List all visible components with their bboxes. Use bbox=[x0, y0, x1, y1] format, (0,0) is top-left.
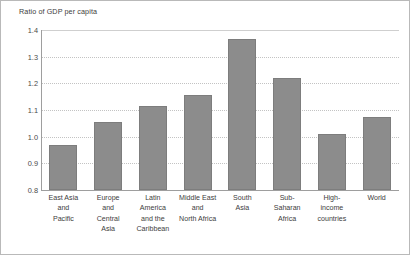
y-tick-label: 1.2 bbox=[10, 79, 38, 88]
bar-slot bbox=[220, 30, 265, 190]
x-tick-label: EuropeandCentralAsia bbox=[86, 193, 131, 235]
x-tick-label-line: North Africa bbox=[175, 214, 220, 224]
bar-slot bbox=[310, 30, 355, 190]
bar[interactable] bbox=[273, 78, 301, 190]
x-tick-label-line: and bbox=[175, 203, 220, 213]
x-tick-label-line: America bbox=[131, 203, 176, 213]
bar[interactable] bbox=[94, 122, 122, 190]
bar-slot bbox=[41, 30, 86, 190]
x-tick-label-line: Pacific bbox=[41, 214, 86, 224]
x-tick-label: East AsiaandPacific bbox=[41, 193, 86, 224]
bar[interactable] bbox=[139, 106, 167, 190]
x-tick-label-line: Asia bbox=[86, 224, 131, 234]
x-tick-label: High-incomecountries bbox=[310, 193, 355, 224]
x-tick-label: LatinAmericaand theCaribbean bbox=[131, 193, 176, 235]
x-tick-label-line: countries bbox=[310, 214, 355, 224]
x-tick-label-line: East Asia bbox=[41, 193, 86, 203]
y-tick-label: 0.9 bbox=[10, 159, 38, 168]
bar[interactable] bbox=[363, 117, 391, 190]
x-tick-label-line: Asia bbox=[220, 203, 265, 213]
y-tick-label: 1.4 bbox=[10, 26, 38, 35]
bar-series bbox=[41, 30, 399, 190]
bar[interactable] bbox=[49, 145, 77, 190]
x-tick-label-line: Saharan bbox=[265, 203, 310, 213]
x-tick-label-line: Sub- bbox=[265, 193, 310, 203]
y-tick-label: 0.8 bbox=[10, 186, 38, 195]
bar-slot bbox=[265, 30, 310, 190]
bar-slot bbox=[354, 30, 399, 190]
x-tick-label-line: Caribbean bbox=[131, 224, 176, 234]
x-axis-line bbox=[41, 190, 399, 191]
bar-slot bbox=[175, 30, 220, 190]
x-tick-label-line: Middle East bbox=[175, 193, 220, 203]
x-tick-label: World bbox=[354, 193, 399, 203]
x-tick-label: Middle EastandNorth Africa bbox=[175, 193, 220, 224]
x-tick-label: SouthAsia bbox=[220, 193, 265, 214]
y-tick-label: 1.0 bbox=[10, 132, 38, 141]
bar[interactable] bbox=[228, 39, 256, 190]
x-tick-label-line: South bbox=[220, 193, 265, 203]
x-tick-label-line: income bbox=[310, 203, 355, 213]
bar[interactable] bbox=[318, 134, 346, 190]
x-tick-label-line: Europe bbox=[86, 193, 131, 203]
bar-slot bbox=[86, 30, 131, 190]
x-tick-label-line: and bbox=[86, 203, 131, 213]
x-tick-label: Sub-SaharanAfrica bbox=[265, 193, 310, 224]
bar[interactable] bbox=[184, 95, 212, 190]
x-tick-label-line: World bbox=[354, 193, 399, 203]
x-tick-label-line: Central bbox=[86, 214, 131, 224]
bar-slot bbox=[131, 30, 176, 190]
y-axis-ticks: 0.80.91.01.11.21.31.4 bbox=[1, 1, 38, 255]
y-tick-label: 1.1 bbox=[10, 106, 38, 115]
x-tick-label-line: and the bbox=[131, 214, 176, 224]
chart-container: Ratio of GDP per capita 0.80.91.01.11.21… bbox=[0, 0, 410, 255]
x-tick-label-line: High- bbox=[310, 193, 355, 203]
x-tick-label-line: Africa bbox=[265, 214, 310, 224]
x-tick-label-line: and bbox=[41, 203, 86, 213]
x-tick-label-line: Latin bbox=[131, 193, 176, 203]
y-tick-label: 1.3 bbox=[10, 52, 38, 61]
x-axis-labels: East AsiaandPacificEuropeandCentralAsiaL… bbox=[41, 193, 399, 253]
